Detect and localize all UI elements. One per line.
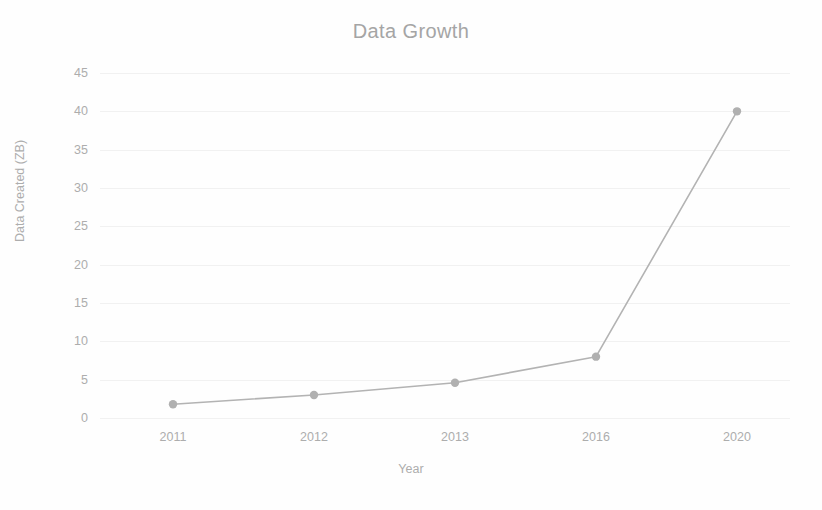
- y-axis-tick-label: 35: [54, 143, 88, 157]
- y-axis-tick-label: 40: [54, 104, 88, 118]
- y-axis-tick-label: 20: [54, 258, 88, 272]
- data-point-marker: [733, 107, 741, 115]
- gridline: [100, 418, 790, 419]
- y-axis-tick-label: 30: [54, 181, 88, 195]
- x-axis-tick-label: 2020: [697, 430, 777, 444]
- y-axis-tick-label: 10: [54, 334, 88, 348]
- plot-area: [100, 73, 790, 418]
- x-axis-tick-label: 2012: [274, 430, 354, 444]
- data-series: [100, 73, 790, 418]
- x-axis-title: Year: [0, 462, 822, 476]
- x-axis-tick-label: 2011: [133, 430, 213, 444]
- x-axis-tick-labels: 20112012201320162020: [0, 430, 822, 450]
- x-axis-tick-label: 2016: [556, 430, 636, 444]
- data-point-marker: [451, 379, 459, 387]
- y-axis-tick-label: 25: [54, 219, 88, 233]
- series-markers: [169, 107, 741, 408]
- y-axis-title: Data Created (ZB): [13, 111, 27, 271]
- y-axis-tick-label: 5: [54, 373, 88, 387]
- x-axis-tick-label: 2013: [415, 430, 495, 444]
- series-line: [173, 111, 737, 404]
- y-axis-tick-label: 45: [54, 66, 88, 80]
- y-axis-tick-label: 0: [54, 411, 88, 425]
- line-chart: Data Growth Data Created (ZB) 0510152025…: [0, 0, 822, 510]
- data-point-marker: [169, 400, 177, 408]
- data-point-marker: [592, 352, 600, 360]
- y-axis-tick-label: 15: [54, 296, 88, 310]
- chart-title: Data Growth: [0, 20, 822, 43]
- data-point-marker: [310, 391, 318, 399]
